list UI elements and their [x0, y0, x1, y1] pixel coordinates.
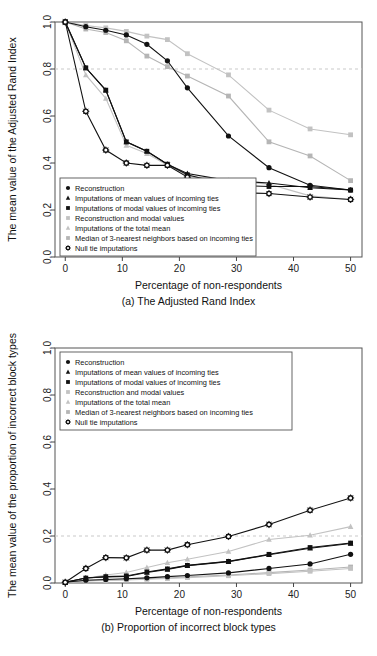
data-point-marker [185, 85, 190, 90]
data-point-marker [83, 24, 88, 29]
legend-item-label[interactable]: Null tie imputations [75, 418, 138, 427]
data-point-marker [185, 74, 190, 79]
y-axis-tick-label: 0.6 [42, 109, 53, 123]
series-6 [62, 18, 355, 203]
y-axis-tick-label: 0.2 [42, 203, 53, 217]
data-point-marker [267, 571, 272, 576]
x-axis-title: Percentage of non-respondents [135, 605, 282, 617]
x-axis-tick-label: 30 [231, 263, 243, 274]
data-point-marker [226, 570, 231, 575]
data-point-marker [348, 132, 353, 137]
series-line [65, 22, 350, 135]
chart-panel-b: 0.00.20.40.60.81.001020304050Percentage … [0, 330, 377, 656]
legend-item-label[interactable]: Imputations of the total mean [75, 224, 170, 233]
series-3 [63, 20, 353, 138]
y-axis-tick-label: 0.4 [42, 156, 53, 170]
data-point-marker [123, 554, 130, 561]
y-axis-tick-label: 0.8 [42, 388, 53, 402]
legend-item-label[interactable]: Median of 3-nearest neighbors based on i… [75, 234, 253, 243]
data-point-marker [185, 573, 190, 578]
data-point-marker [348, 524, 354, 529]
data-point-marker [124, 32, 129, 37]
data-point-marker [307, 561, 312, 566]
data-point-marker [164, 547, 171, 554]
data-point-marker [143, 162, 150, 169]
legend-item-label[interactable]: Reconstruction [75, 184, 124, 193]
series-line [65, 22, 350, 199]
chart-b-svg: 0.00.20.40.60.81.001020304050Percentage … [0, 330, 377, 656]
figure-container: 0.00.20.40.60.81.001020304050Percentage … [0, 0, 377, 656]
data-point-marker [124, 38, 129, 43]
legend[interactable]: ReconstructionImputations of mean values… [60, 352, 292, 430]
legend-item-label[interactable]: Reconstruction and modal values [75, 214, 185, 223]
panel-caption: (b) Proportion of incorrect block types [101, 621, 276, 633]
legend-item-label[interactable]: Median of 3-nearest neighbors based on i… [75, 408, 253, 417]
x-axis-tick-label: 50 [345, 263, 357, 274]
x-axis-title: Percentage of non-respondents [135, 279, 282, 291]
data-point-marker [123, 159, 130, 166]
data-point-marker [143, 547, 150, 554]
y-axis-tick-label: 0.8 [42, 62, 53, 76]
x-axis-tick-label: 20 [174, 263, 186, 274]
legend[interactable]: ReconstructionImputations of mean values… [60, 178, 256, 256]
data-point-marker [348, 566, 353, 571]
y-axis-tick-label: 0.0 [42, 250, 53, 264]
x-axis-tick-label: 0 [62, 263, 68, 274]
x-axis-tick-label: 20 [174, 589, 186, 600]
x-axis-tick-label: 40 [288, 589, 300, 600]
data-point-marker [267, 108, 272, 113]
panel-caption: (a) The Adjusted Rand Index [122, 295, 256, 307]
chart-panel-a: 0.00.20.40.60.81.001020304050Percentage … [0, 0, 377, 330]
data-point-marker [165, 58, 170, 63]
legend-item-label[interactable]: Imputations of the total mean [75, 398, 170, 407]
legend-item-label[interactable]: Imputations of mean values of incoming t… [75, 368, 219, 377]
series-1 [62, 19, 353, 192]
series-4 [62, 19, 353, 202]
y-axis-tick-label: 1.0 [42, 15, 53, 29]
data-point-marker [226, 72, 231, 77]
legend-item-label[interactable]: Imputations of mean values of incoming t… [75, 194, 219, 203]
data-point-marker [226, 133, 231, 138]
data-point-marker [306, 507, 313, 514]
data-point-marker [347, 494, 354, 501]
legend-item-label[interactable]: Null tie imputations [75, 244, 138, 253]
y-axis-tick-label: 0.0 [42, 576, 53, 590]
data-point-marker [165, 574, 170, 579]
data-point-marker [164, 162, 171, 169]
y-axis-tick-label: 0.6 [42, 435, 53, 449]
legend-item-label[interactable]: Imputations of modal values of incoming … [75, 378, 221, 387]
chart-a-svg: 0.00.20.40.60.81.001020304050Percentage … [0, 0, 377, 330]
legend-item-label[interactable]: Reconstruction and modal values [75, 388, 185, 397]
series-0 [63, 19, 354, 192]
plot-a: 0.00.20.40.60.81.001020304050Percentage … [0, 0, 377, 330]
data-point-marker [165, 37, 170, 42]
data-point-marker [184, 541, 191, 548]
x-axis-tick-label: 40 [288, 263, 300, 274]
plot-b: 0.00.20.40.60.81.001020304050Percentage … [0, 330, 377, 656]
x-axis-tick-label: 50 [345, 589, 357, 600]
data-point-marker [225, 533, 232, 540]
y-axis-title: The mean value of the Adjusted Rand Inde… [6, 37, 18, 242]
data-point-marker [308, 127, 313, 132]
y-axis-tick-label: 0.2 [42, 529, 53, 543]
legend-item-label[interactable]: Imputations of modal values of incoming … [75, 204, 221, 213]
y-axis-title: The mean value of the proportion of inco… [6, 333, 18, 598]
data-point-marker [82, 565, 89, 572]
data-point-marker [266, 566, 271, 571]
y-axis-tick-label: 1.0 [42, 341, 53, 355]
data-point-marker [144, 575, 149, 580]
data-point-marker [102, 146, 109, 153]
y-axis-tick-label: 0.4 [42, 482, 53, 496]
data-point-marker [83, 72, 89, 77]
data-point-marker [165, 64, 170, 69]
data-point-marker [226, 94, 231, 99]
data-point-marker [306, 193, 313, 200]
legend-item-label[interactable]: Reconstruction [75, 358, 124, 367]
data-point-marker [62, 18, 69, 25]
data-point-marker [144, 54, 149, 59]
x-axis-tick-label: 10 [117, 263, 129, 274]
x-axis-tick-label: 30 [231, 589, 243, 600]
data-point-marker [308, 154, 313, 159]
x-axis-tick-label: 10 [117, 589, 129, 600]
data-point-marker [144, 42, 149, 47]
